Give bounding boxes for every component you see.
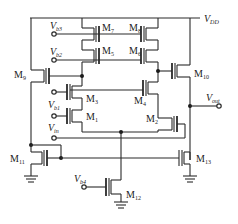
m3-label: M3 [86, 93, 98, 105]
m12-label: M12 [126, 189, 141, 201]
ground-icon [183, 176, 197, 182]
m10-label: M10 [194, 68, 209, 80]
vb1-m1-terminal[interactable] [52, 114, 56, 118]
m1-label: M1 [86, 111, 98, 123]
vout-label: Vout [206, 92, 220, 104]
vin-terminal[interactable] [52, 136, 56, 140]
m13-label: M13 [196, 153, 211, 165]
transistor-m10 [172, 63, 190, 160]
vb3-label: Vb3 [50, 20, 62, 32]
m2-label: M2 [146, 113, 158, 125]
m5-label: M5 [102, 45, 114, 57]
vin-label: Vin [48, 122, 59, 134]
m8-label: M8 [129, 22, 141, 34]
transistor-m13 [179, 150, 190, 176]
junction [156, 69, 160, 73]
m9-label: M9 [14, 69, 26, 81]
transistor-m3 [67, 84, 82, 110]
transistor-m7 [82, 26, 99, 50]
transistor-m11 [31, 145, 47, 176]
transistor-m8 [141, 26, 158, 50]
m7-label: M7 [102, 22, 114, 34]
m4-label: M4 [134, 95, 146, 107]
ground-icon [114, 202, 128, 208]
transistor-m6 [141, 48, 158, 72]
m6-label: M6 [129, 45, 141, 57]
vb4-terminal[interactable] [82, 185, 86, 189]
vb1-terminal[interactable] [52, 90, 56, 94]
transistor-m2 [158, 116, 177, 132]
transistor-m12 [106, 178, 121, 202]
vout-terminal[interactable] [217, 104, 221, 108]
m11-label: M11 [10, 153, 25, 165]
vb2-label: Vb2 [50, 46, 62, 58]
transistor-m9 [31, 68, 49, 145]
vb2-terminal[interactable] [52, 58, 56, 62]
vb1-label: Vb1 [48, 99, 60, 111]
transistor-m1 [67, 108, 82, 132]
vb3-terminal[interactable] [52, 32, 56, 36]
circuit-schematic: VDD Vout Vb3 Vb2 Vb1 Vin Vb4 M7 M8 M5 M6… [0, 0, 238, 224]
junction [80, 74, 84, 78]
vb4-label: Vb4 [74, 173, 86, 185]
ground-icon [24, 176, 38, 182]
vdd-label: VDD [204, 13, 219, 25]
